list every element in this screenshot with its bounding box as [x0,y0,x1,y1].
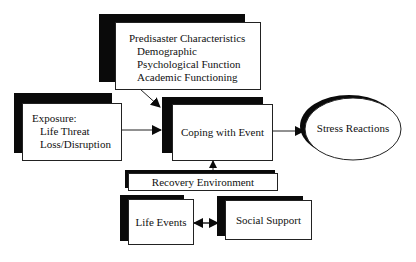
recovery-label: Recovery Environment [152,176,254,189]
life-events-box: Life Events [128,199,194,245]
social-support-box: Social Support [225,200,312,240]
recovery-box: Recovery Environment [128,173,278,191]
stress-label: Stress Reactions [305,122,401,135]
life-events-label: Life Events [135,216,186,229]
arrow-predisaster-to-coping [140,89,160,107]
social-support-label: Social Support [236,214,301,227]
